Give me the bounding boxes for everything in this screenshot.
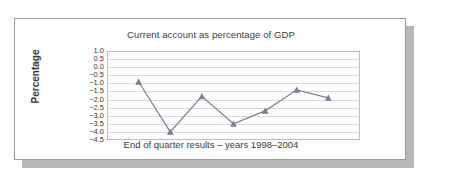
data-point-marker [293, 86, 300, 92]
data-point-marker [198, 93, 205, 99]
y-axis-title: Percentage [30, 31, 41, 123]
chart-panel: Current account as percentage of GDP Per… [14, 18, 406, 160]
data-point-marker [135, 78, 142, 84]
plot-region: 1.00.50.0−0.5−1.0−1.5−2.0−2.5−3.0−3.5−4.… [107, 51, 360, 140]
chart-title: Current account as percentage of GDP [15, 29, 407, 40]
screenshot-canvas: Current account as percentage of GDP Per… [0, 0, 452, 189]
data-series-layer [107, 51, 360, 140]
x-axis-title: End of quarter results – years 1998–2004 [15, 139, 407, 150]
data-point-marker [262, 107, 269, 113]
